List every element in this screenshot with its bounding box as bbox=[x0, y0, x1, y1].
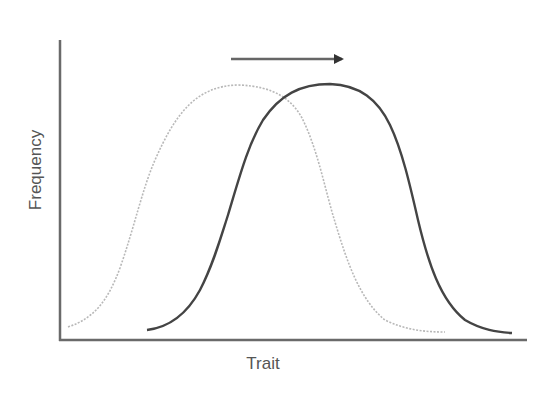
directional-selection-chart: Frequency Trait bbox=[0, 0, 557, 395]
shifted-distribution-curve bbox=[147, 84, 512, 333]
x-axis-label: Trait bbox=[246, 354, 280, 373]
y-axis-label: Frequency bbox=[26, 129, 45, 210]
